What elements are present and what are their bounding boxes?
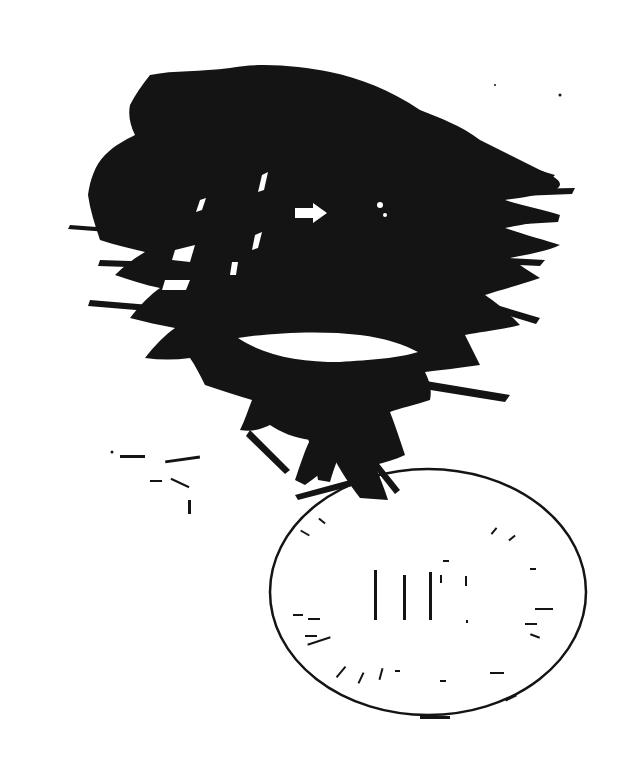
oval-stamp	[270, 469, 586, 719]
tree-silhouette	[68, 65, 575, 500]
scanned-image	[0, 0, 633, 768]
